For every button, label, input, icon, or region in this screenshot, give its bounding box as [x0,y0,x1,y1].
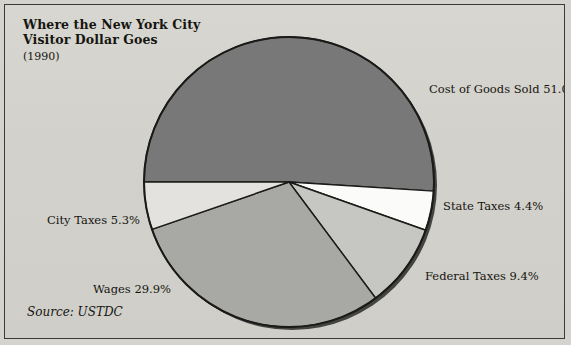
pie-slices [144,37,437,330]
slice-label-state-taxes: State Taxes 4.4% [443,199,543,213]
chart-frame: Where the New York City Visitor Dollar G… [4,4,565,339]
slice-label-city-taxes: City Taxes 5.3% [47,213,140,227]
slice-label-federal-taxes: Federal Taxes 9.4% [425,269,539,283]
pie-slice-cost-of-goods-sold [144,37,434,191]
source-note: Source: USTDC [27,305,123,319]
pie-chart [5,5,565,339]
slice-label-cost-of-goods: Cost of Goods Sold 51.0% [429,82,565,96]
slice-label-wages: Wages 29.9% [93,282,171,296]
